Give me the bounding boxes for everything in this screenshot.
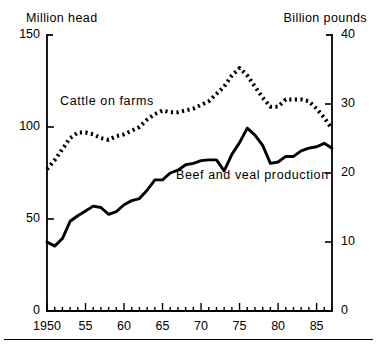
left-axis-tick-label-0: 0 — [0, 303, 40, 317]
left-axis-tick-label-100: 100 — [0, 119, 40, 133]
footer-divider — [4, 339, 373, 340]
series-line-cattle-on-farms — [47, 68, 332, 169]
series-label-cattle-on-farms: Cattle on farms — [60, 94, 154, 108]
right-axis-tick-label-20: 20 — [341, 165, 377, 179]
left-axis-tick-label-150: 150 — [0, 27, 40, 41]
series-label-beef-and-veal-production: Beef and veal production — [176, 168, 329, 182]
right-axis-tick-label-40: 40 — [341, 27, 377, 41]
right-axis-tick-label-10: 10 — [341, 234, 377, 248]
right-axis-tick-label-0: 0 — [341, 303, 377, 317]
right-axis-tick-label-30: 30 — [341, 96, 377, 110]
series-line-beef-and-veal-production — [47, 128, 332, 246]
chart-figure: Million head Billion pounds Cattle on fa… — [0, 0, 377, 347]
left-axis-tick-label-50: 50 — [0, 211, 40, 225]
x-axis-tick-label-1985: 85 — [287, 319, 347, 333]
